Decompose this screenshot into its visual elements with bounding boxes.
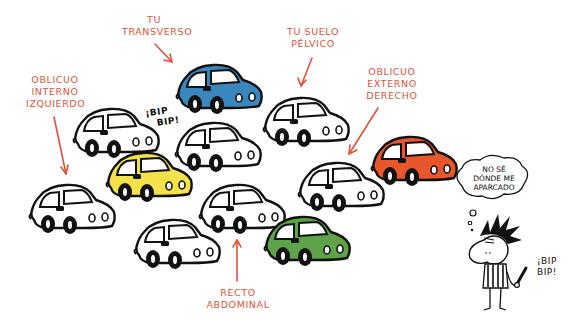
- bip-line: ¡BIP: [537, 256, 557, 267]
- thought-line: DÓNDE ME: [470, 174, 518, 183]
- car-key: [517, 268, 526, 284]
- bip-line: BIP!: [537, 267, 557, 278]
- shirt: [483, 264, 508, 288]
- thought-bubble-text: NO SÉ DÓNDE ME APARCADO: [470, 165, 518, 192]
- bip-sound-person: ¡BIP BIP!: [537, 256, 557, 278]
- thought-line: APARCADO: [470, 183, 518, 192]
- thought-line: NO SÉ: [470, 165, 518, 174]
